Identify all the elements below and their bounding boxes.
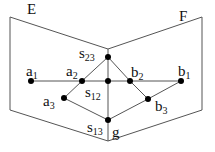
label-b3: b3 — [155, 99, 168, 116]
edge-s23-b2 — [108, 57, 130, 81]
label-plane-f: F — [179, 9, 187, 24]
label-b2: b2 — [131, 65, 144, 82]
diagram: E F a1 a2 a3 b1 b2 b3 s12 s13 s23 g — [0, 0, 215, 152]
edge-b3-b1 — [148, 81, 181, 99]
point-s23 — [105, 54, 111, 60]
label-s12: s12 — [85, 85, 101, 102]
label-a3: a3 — [43, 94, 55, 111]
point-a3 — [61, 95, 67, 101]
label-g: g — [112, 125, 120, 140]
edge-b2-b3 — [130, 81, 148, 99]
point-b3 — [145, 96, 151, 102]
label-a2: a2 — [66, 64, 78, 81]
label-a1: a1 — [26, 64, 38, 81]
label-s23: s23 — [79, 46, 95, 63]
label-plane-e: E — [27, 2, 36, 17]
label-s13: s13 — [87, 120, 103, 137]
point-s13 — [105, 117, 111, 123]
point-s12 — [105, 78, 111, 84]
edge-b3-g — [108, 99, 148, 120]
label-b1: b1 — [178, 64, 191, 81]
edge-a2-a3 — [64, 81, 82, 98]
